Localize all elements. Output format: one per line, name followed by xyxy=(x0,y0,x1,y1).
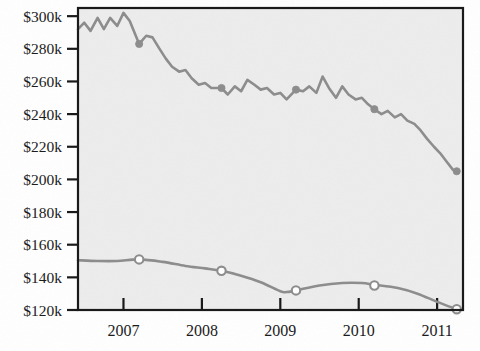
data-point-marker-upper-series xyxy=(136,40,143,47)
data-point-marker-lower-series xyxy=(370,281,378,289)
y-tick-label: $220k xyxy=(23,138,62,155)
y-tick-label: $240k xyxy=(23,106,62,123)
y-tick-label: $120k xyxy=(23,302,62,319)
data-point-marker-lower-series xyxy=(292,286,300,294)
y-tick-label: $280k xyxy=(23,40,62,57)
data-point-marker-lower-series xyxy=(135,255,143,263)
data-point-marker-lower-series xyxy=(217,267,225,275)
x-tick-label: 2007 xyxy=(107,322,139,339)
data-point-marker-upper-series xyxy=(371,106,378,113)
data-point-marker-upper-series xyxy=(218,84,225,91)
data-point-marker-upper-series xyxy=(292,86,299,93)
y-tick-label: $180k xyxy=(23,204,62,221)
paper-grain xyxy=(0,0,480,351)
y-tick-label: $260k xyxy=(23,73,62,90)
x-tick-label: 2011 xyxy=(421,322,452,339)
y-tick-label: $200k xyxy=(23,171,62,188)
x-tick-label: 2010 xyxy=(343,322,375,339)
line-chart: $120k$140k$160k$180k$200k$220k$240k$260k… xyxy=(0,0,480,351)
y-tick-label: $160k xyxy=(23,236,62,253)
y-tick-label: $140k xyxy=(23,269,62,286)
chart-canvas: $120k$140k$160k$180k$200k$220k$240k$260k… xyxy=(0,0,480,351)
data-point-marker-upper-series xyxy=(453,168,460,175)
x-tick-label: 2009 xyxy=(264,322,296,339)
x-tick-label: 2008 xyxy=(186,322,218,339)
y-tick-label: $300k xyxy=(23,8,62,25)
